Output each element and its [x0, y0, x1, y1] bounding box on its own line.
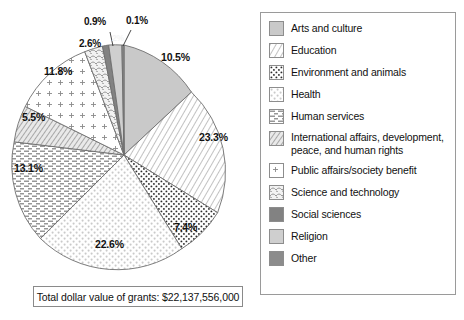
pie-label-science-and-technology: 2.6%	[79, 39, 101, 49]
legend-item-education[interactable]: Education	[269, 43, 449, 58]
legend-swatch-international-affairs-icon	[269, 131, 284, 146]
legend-label-religion: Religion	[291, 229, 328, 243]
legend-swatch-other-icon	[269, 251, 284, 266]
legend-swatch-arts-and-culture-icon	[269, 21, 284, 36]
legend-item-international-affairs[interactable]: International affairs, development, peac…	[269, 131, 449, 156]
legend-label-social-sciences: Social sciences	[291, 207, 361, 221]
legend-label-education: Education	[291, 43, 336, 57]
legend-item-religion[interactable]: Religion	[269, 229, 449, 244]
legend-swatch-religion-icon	[269, 229, 284, 244]
legend-label-science-and-technology: Science and technology	[291, 185, 399, 199]
chart-legend: Arts and culture Education Environment a…	[260, 12, 456, 295]
legend-item-other[interactable]: Other	[269, 251, 449, 266]
pie-label-international-affairs: 5.5%	[22, 112, 45, 123]
legend-swatch-education-icon	[269, 43, 284, 58]
legend-label-public-affairs: Public affairs/society benefit	[291, 163, 416, 177]
total-value-text: Total dollar value of grants: $22,137,55…	[37, 291, 240, 303]
legend-label-environment-and-animals: Environment and animals	[291, 65, 406, 79]
pie-label-education: 23.3%	[199, 132, 228, 143]
legend-label-other: Other	[291, 251, 317, 265]
legend-swatch-health-icon	[269, 87, 284, 102]
legend-swatch-environment-and-animals-icon	[269, 65, 284, 80]
total-value-box: Total dollar value of grants: $22,137,55…	[33, 286, 243, 307]
legend-label-health: Health	[291, 87, 320, 101]
pie-label-health: 22.6%	[95, 239, 124, 250]
pie-label-other: 0.1%	[126, 16, 148, 26]
legend-label-international-affairs: International affairs, development, peac…	[291, 131, 449, 156]
legend-swatch-public-affairs-icon	[269, 163, 284, 178]
legend-label-arts-and-culture: Arts and culture	[291, 21, 362, 35]
pie-label-arts-and-culture: 10.5%	[161, 52, 190, 63]
legend-item-science-and-technology[interactable]: Science and technology	[269, 185, 449, 200]
legend-swatch-science-and-technology-icon	[269, 185, 284, 200]
pie-chart-panel: 10.5% 23.3% 7.4% 22.6% 13.1% 5.5% 11.8% …	[0, 0, 256, 320]
legend-label-human-services: Human services	[291, 109, 364, 123]
legend-item-health[interactable]: Health	[269, 87, 449, 102]
pie-label-social-sciences: 0.9%	[84, 17, 106, 27]
pie-label-public-affairs: 11.8%	[44, 66, 72, 77]
legend-swatch-human-services-icon	[269, 109, 284, 124]
legend-item-human-services[interactable]: Human services	[269, 109, 449, 124]
legend-swatch-social-sciences-icon	[269, 207, 284, 222]
legend-item-social-sciences[interactable]: Social sciences	[269, 207, 449, 222]
legend-item-arts-and-culture[interactable]: Arts and culture	[269, 21, 449, 36]
legend-item-environment-and-animals[interactable]: Environment and animals	[269, 65, 449, 80]
leader-line-other	[123, 30, 131, 46]
pie-label-human-services: 13.1%	[14, 163, 43, 174]
pie-chart-graphic	[0, 0, 256, 320]
pie-label-religion: 2%	[112, 34, 124, 43]
pie-label-environment-and-animals: 7.4%	[174, 222, 197, 233]
legend-item-public-affairs[interactable]: Public affairs/society benefit	[269, 163, 449, 178]
